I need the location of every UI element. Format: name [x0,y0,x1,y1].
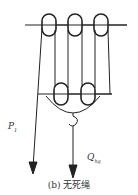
load-arrow [69,165,77,178]
pull-force-label: P1 [8,121,17,133]
caption: (b) 无死绳 [0,178,138,191]
load-label: Qhg [87,152,101,164]
pulley-diagram [0,0,138,195]
fast-line [33,28,42,168]
pull-arrow [29,162,37,174]
hook [69,113,77,126]
